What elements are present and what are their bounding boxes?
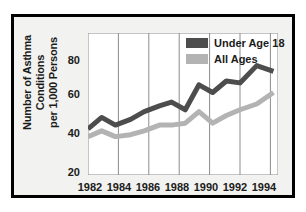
legend-item-all-ages: All Ages <box>186 53 285 65</box>
chart-figure: Number of Asthma Conditions per 1,000 Pe… <box>11 14 295 198</box>
y-tick-40: 40 <box>54 127 80 139</box>
legend-label-under-age-18: Under Age 18 <box>214 37 285 49</box>
y-tick-60: 60 <box>54 88 80 100</box>
chart-legend: Under Age 18 All Ages <box>186 37 285 69</box>
x-tick-1994: 1994 <box>247 181 281 193</box>
y-tick-80: 80 <box>54 54 80 66</box>
y-axis-label-line-1: Number of Asthma Conditions <box>21 13 47 153</box>
legend-swatch-all-ages <box>186 54 208 64</box>
y-tick-20: 20 <box>54 166 80 178</box>
legend-label-all-ages: All Ages <box>214 53 258 65</box>
legend-swatch-under-age-18 <box>186 38 208 48</box>
legend-item-under-age-18: Under Age 18 <box>186 37 285 49</box>
